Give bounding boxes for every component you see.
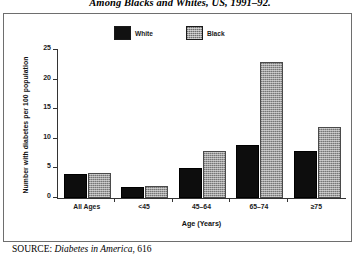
- bar-white-0[interactable]: [64, 174, 87, 198]
- bar-white-3[interactable]: [236, 145, 259, 198]
- bar-black-3[interactable]: [260, 62, 283, 198]
- bar-group: [64, 50, 111, 198]
- legend-label-white: White: [135, 30, 153, 37]
- x-axis-category-label: <45: [115, 203, 172, 210]
- legend-swatch-white: [114, 26, 131, 40]
- x-axis-tick: [287, 198, 288, 202]
- y-axis-tick: 10: [53, 138, 58, 139]
- x-axis-category-label: 65–74: [230, 203, 287, 210]
- y-axis-tick: 25: [53, 49, 58, 50]
- figure-caption: Among Blacks and Whites, US, 1991–92.: [0, 0, 360, 11]
- y-axis-tick-label: 10: [43, 133, 51, 140]
- bar-white-1[interactable]: [121, 187, 144, 198]
- y-axis-tick-label: 5: [47, 162, 51, 169]
- bar-black-0[interactable]: [88, 173, 111, 198]
- legend-label-black: Black: [207, 30, 225, 37]
- bar-group: [121, 50, 168, 198]
- bar-group: [179, 50, 226, 198]
- x-axis-tick: [172, 198, 173, 202]
- y-axis-tick: 5: [53, 167, 58, 168]
- legend-entry-black[interactable]: Black: [186, 25, 225, 41]
- bar-white-4[interactable]: [294, 151, 317, 198]
- source-title: Diabetes in America: [55, 244, 133, 254]
- x-axis-tick: [114, 198, 115, 202]
- y-axis-tick-label: 0: [47, 192, 51, 199]
- y-axis-tick: 0: [53, 197, 58, 198]
- x-axis-title: Age (Years): [58, 219, 345, 228]
- y-axis-tick: 15: [53, 108, 58, 109]
- y-axis-tick-label: 25: [43, 44, 51, 51]
- x-axis-category-label: 45–64: [173, 203, 230, 210]
- chart-legend: WhiteBlack: [114, 25, 244, 41]
- legend-entry-white[interactable]: White: [114, 25, 153, 41]
- y-axis-tick: 20: [53, 79, 58, 80]
- bar-black-2[interactable]: [203, 151, 226, 198]
- x-axis-line: [57, 198, 346, 199]
- bar-group: [236, 50, 283, 198]
- y-axis-title: Number with diabetes per 100 population: [22, 52, 32, 198]
- bar-black-4[interactable]: [318, 127, 341, 198]
- bar-black-1[interactable]: [145, 186, 168, 198]
- plot-area: 0510152025: [58, 50, 345, 198]
- source-page: , 616: [132, 244, 151, 254]
- bar-white-2[interactable]: [179, 168, 202, 198]
- source-label: SOURCE:: [12, 244, 52, 254]
- source-note: SOURCE: Diabetes in America, 616: [12, 244, 151, 254]
- x-axis-category-label: All Ages: [58, 203, 115, 210]
- y-axis-tick-label: 15: [43, 103, 51, 110]
- x-axis-category-label: ≥75: [288, 203, 345, 210]
- y-axis-tick-label: 20: [43, 74, 51, 81]
- x-axis-tick: [229, 198, 230, 202]
- legend-swatch-black: [186, 26, 203, 40]
- bar-group: [294, 50, 341, 198]
